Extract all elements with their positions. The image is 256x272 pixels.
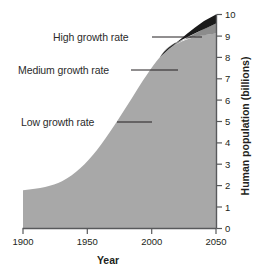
low-growth-area (23, 34, 216, 229)
y-axis-ticks (217, 15, 223, 229)
y-axis-title: Human population (billions) (239, 57, 251, 196)
y-tick-label-5: 5 (225, 116, 230, 127)
x-tick-label-1950: 1950 (77, 236, 98, 247)
y-tick-label-8: 8 (225, 52, 230, 63)
y-tick-label-9: 9 (225, 31, 230, 42)
x-axis-ticks (23, 229, 216, 235)
y-tick-label-10: 10 (225, 9, 236, 20)
x-tick-label-2050: 2050 (205, 236, 226, 247)
low-growth-rate-label: Low growth rate (21, 116, 94, 128)
population-growth-figure: 10 9 8 7 6 5 4 3 2 1 0 1900 1950 2000 20… (0, 0, 256, 272)
x-tick-label-2000: 2000 (141, 236, 162, 247)
y-tick-label-3: 3 (225, 159, 230, 170)
x-tick-label-1900: 1900 (12, 236, 33, 247)
y-tick-label-1: 1 (225, 202, 230, 213)
y-tick-label-7: 7 (225, 73, 230, 84)
x-axis-title: Year (97, 254, 119, 266)
y-tick-label-6: 6 (225, 95, 230, 106)
y-tick-label-4: 4 (225, 137, 230, 148)
medium-growth-rate-label: Medium growth rate (18, 64, 109, 76)
high-growth-rate-label: High growth rate (53, 31, 128, 43)
y-tick-label-2: 2 (225, 180, 230, 191)
y-tick-label-0: 0 (225, 223, 230, 234)
